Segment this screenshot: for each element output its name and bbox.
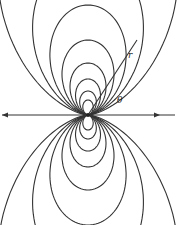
field-line-open	[33, 115, 144, 225]
field-line-open	[0, 0, 177, 115]
field-lines	[0, 0, 177, 225]
field-line	[83, 100, 93, 115]
label-r: r	[128, 50, 133, 60]
field-line	[62, 115, 114, 190]
field-line	[62, 40, 114, 115]
field-line	[83, 115, 93, 130]
axis-arrow-left	[2, 113, 8, 118]
label-theta: θ	[117, 95, 123, 105]
field-line	[50, 115, 126, 225]
field-line	[80, 91, 97, 115]
dipole-field-diagram: r θ	[0, 0, 177, 225]
axis-arrow-right	[154, 113, 160, 118]
dipole-center	[86, 113, 90, 117]
field-line-open	[33, 0, 144, 115]
field-line-open	[0, 115, 177, 225]
field-line	[80, 115, 97, 139]
field-line	[50, 5, 126, 115]
